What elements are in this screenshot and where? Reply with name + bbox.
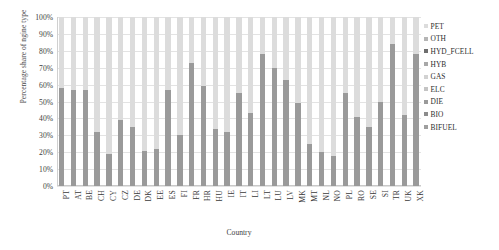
legend-item[interactable]: PET [424,20,498,33]
bar-segment-pet [248,17,253,113]
legend-swatch-icon [424,112,428,116]
x-axis-tick-wrap: FI [177,188,182,222]
legend-item[interactable]: BIO [424,108,498,121]
x-axis-tick-label: NO [333,190,342,201]
x-axis-tick-label: CH [97,190,106,201]
legend-item[interactable]: BIFUEL [424,121,498,134]
bar-column[interactable] [83,17,88,186]
x-axis-tick-wrap: IE [224,188,229,222]
bar-segment-pet [154,17,159,149]
bar-segment-pet [319,17,324,152]
x-axis-tick-label: MK [298,190,307,203]
bar-segment-pet [177,17,182,135]
bar-column[interactable] [354,17,359,186]
bar-column[interactable] [331,17,336,186]
gridline [57,186,421,187]
legend-swatch-icon [424,125,428,129]
bar-column[interactable] [224,17,229,186]
legend-label: GAS [431,72,446,81]
bar-column[interactable] [260,17,265,186]
legend-item[interactable]: ELC [424,83,498,96]
x-axis-tick-wrap: LU [272,188,277,222]
x-axis-tick-label: HU [215,190,224,201]
bar-column[interactable] [142,17,147,186]
bar-segment-die [331,156,336,186]
x-axis-tick-label: ES [168,190,177,199]
bar-column[interactable] [154,17,159,186]
bar-column[interactable] [319,17,324,186]
legend-label: BIFUEL [431,123,457,132]
bar-segment-pet [59,17,64,88]
x-axis-tick-label: FI [180,190,189,197]
y-axis-tick-label: 90% [19,29,53,38]
bar-segment-die [236,93,241,186]
x-axis-tick-label: LT [263,190,272,199]
engine-type-share-chart: Percentage share of ngine type 0%10%20%3… [0,0,499,250]
bar-column[interactable] [130,17,135,186]
bar-segment-pet [295,17,300,103]
legend-item[interactable]: HYB [424,58,498,71]
legend-item[interactable]: DIE [424,96,498,109]
bar-segment-pet [413,17,418,54]
bar-column[interactable] [366,17,371,186]
bar-column[interactable] [59,17,64,186]
x-axis-tick-label: AT [74,190,83,200]
bar-segment-die [177,135,182,186]
bar-column[interactable] [106,17,111,186]
y-axis-tick-label: 20% [19,148,53,157]
bar-column[interactable] [413,17,418,186]
legend-swatch-icon [424,87,428,91]
legend-item[interactable]: GAS [424,70,498,83]
bar-column[interactable] [71,17,76,186]
bar-segment-pet [331,17,336,156]
bar-column[interactable] [343,17,348,186]
x-axis-tick-label: CY [109,190,118,201]
x-axis-tick-label: LI [251,190,260,198]
x-axis-tick-label: DK [144,190,153,201]
bar-segment-pet [354,17,359,117]
legend-item[interactable]: OTH [424,33,498,46]
x-axis-tick-label: RO [357,190,366,201]
x-axis-tick-label: LV [286,190,295,200]
x-axis-tick-label: TR [392,190,401,200]
bar-segment-pet [307,17,312,144]
bar-column[interactable] [390,17,395,186]
bar-column[interactable] [201,17,206,186]
x-axis-tick-wrap: BE [83,188,88,222]
bar-column[interactable] [272,17,277,186]
x-axis-tick-label: EE [156,190,165,200]
bar-column[interactable] [378,17,383,186]
x-axis-tick-wrap: LI [248,188,253,222]
x-axis-tick-wrap: CY [106,188,111,222]
bar-segment-die [260,54,265,186]
bar-column[interactable] [94,17,99,186]
x-axis-tick-wrap: FR [189,188,194,222]
bar-segment-pet [366,17,371,127]
bar-segment-die [213,129,218,186]
bar-column[interactable] [295,17,300,186]
bar-segment-die [118,120,123,186]
bar-column[interactable] [402,17,407,186]
x-axis-tick-label: NL [322,190,331,201]
x-axis-tick-wrap: DK [142,188,147,222]
bar-column[interactable] [189,17,194,186]
legend-item[interactable]: HYD_FCELL [424,45,498,58]
bar-segment-die [59,88,64,186]
legend-label: BIO [431,110,444,119]
x-axis-tick-wrap: ES [165,188,170,222]
x-axis-tick-wrap: NO [331,188,336,222]
bar-column[interactable] [283,17,288,186]
bar-segment-pet [142,17,147,151]
chart-legend: PETOTHHYD_FCELLHYBGASELCDIEBIOBIFUEL [424,20,498,133]
bar-column[interactable] [213,17,218,186]
bar-column[interactable] [177,17,182,186]
bar-column[interactable] [236,17,241,186]
x-axis-tick-wrap: XK [413,188,418,222]
bar-column[interactable] [118,17,123,186]
y-axis-tick-label: 40% [19,114,53,123]
bar-segment-pet [94,17,99,132]
bar-column[interactable] [248,17,253,186]
x-axis-tick-wrap: PL [343,188,348,222]
bar-column[interactable] [165,17,170,186]
bar-column[interactable] [307,17,312,186]
